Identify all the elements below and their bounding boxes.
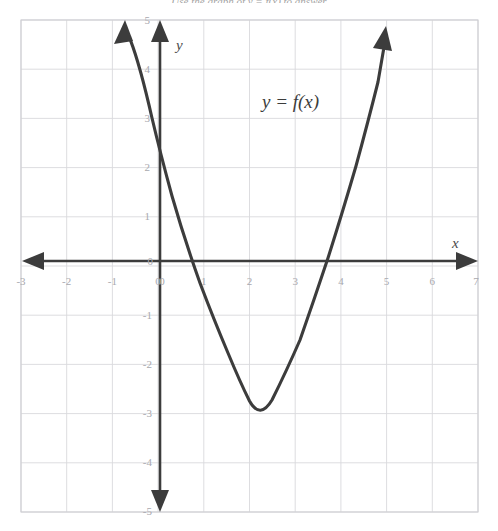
x-tick-label: -1	[108, 275, 117, 287]
y-tick-label: -1	[143, 309, 152, 321]
y-tick-label: 4	[145, 63, 151, 75]
y-tick-label: -3	[143, 407, 153, 419]
y-tick-label: 5	[145, 14, 151, 26]
x-tick-label: -2	[62, 275, 71, 287]
x-tick-label: 3	[292, 275, 298, 287]
y-tick-label: -2	[143, 358, 152, 370]
x-tick-label: 2	[247, 275, 253, 287]
x-tick-label: 6	[430, 275, 436, 287]
y-tick-label: -4	[143, 456, 153, 468]
coordinate-plane-svg: -3 -2 -1 0 1 2 3 4 5 6 7 5 4 3 2 1 0 -1 …	[0, 0, 498, 531]
graph-figure: Use the graph of y = f(x) to answer	[0, 0, 498, 531]
function-annotation-label: y = f(x)	[260, 91, 319, 113]
y-tick-label-zero: 0	[148, 255, 154, 267]
x-tick-label: 5	[384, 275, 390, 287]
x-tick-label: -3	[16, 275, 26, 287]
x-tick-label: 4	[338, 275, 344, 287]
figure-caption-partial: Use the graph of y = f(x) to answer	[0, 0, 498, 3]
y-tick-label: 1	[145, 210, 151, 222]
y-tick-label: 2	[145, 161, 151, 173]
origin-label: 0	[159, 275, 165, 287]
x-tick-label: 7	[473, 275, 479, 287]
y-axis-name: y	[174, 37, 183, 53]
x-axis-name: x	[451, 235, 459, 251]
y-tick-label: -5	[143, 505, 153, 517]
